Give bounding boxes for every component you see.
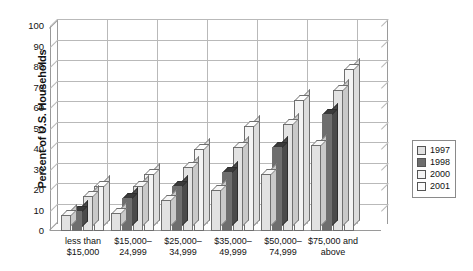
y-tick-20: 20 [16,185,44,195]
chart-depth-edge-bottom-left [50,221,60,231]
legend-label: 2000 [430,170,450,179]
bar-1997-group-2 [111,213,121,231]
y-tick-100: 100 [16,21,44,31]
y-tick-30: 30 [16,165,44,175]
bar-side [321,134,327,226]
y-tick-60: 60 [16,103,44,113]
bar-face [211,190,221,231]
x-tick-group-6: $75,000 and above [299,236,367,258]
bar-1997-group-6 [311,145,321,231]
y-tick-40: 40 [16,144,44,154]
legend: 1997199820002001 [412,140,456,198]
legend-item-2000: 2000 [417,169,450,180]
y-tick-50: 50 [16,124,44,134]
legend-item-2001: 2001 [417,181,450,192]
legend-item-1998: 1998 [417,157,450,168]
bar-side [254,115,260,226]
bar-1997-group-5 [261,174,271,231]
legend-swatch-icon-2001 [417,182,426,191]
bar-side [332,103,338,226]
legend-label: 2001 [430,182,450,191]
bar-chart: Percent of U.S. Households 1009080706050… [0,0,473,271]
bar-face [111,213,121,231]
bar-face [61,215,71,231]
legend-swatch-icon-1997 [417,146,426,155]
bar-side [293,113,299,226]
bar-side [343,79,349,226]
legend-label: 1997 [430,146,450,155]
y-tick-90: 90 [16,42,44,52]
y-tick-70: 70 [16,83,44,93]
y-tick-0: 0 [16,226,44,236]
legend-swatch-icon-2000 [417,170,426,179]
legend-swatch-icon-1998 [417,158,426,167]
y-tick-10: 10 [16,206,44,216]
plot-area [50,19,388,231]
bar-side [354,58,360,226]
bar-side [304,89,310,226]
bar-1997-group-1 [61,215,71,231]
bar-face [161,200,171,231]
bar-face [261,174,271,231]
bar-side [204,138,210,226]
bar-side [243,136,249,226]
bar-1997-group-4 [211,190,221,231]
y-tick-80: 80 [16,62,44,72]
bar-face [311,145,321,231]
bar-side [282,136,288,226]
bar-1997-group-3 [161,200,171,231]
legend-item-1997: 1997 [417,145,450,156]
legend-label: 1998 [430,158,450,167]
